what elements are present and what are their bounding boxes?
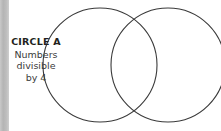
venn-circle-b xyxy=(111,8,221,122)
circle-a-description-line-1: Numbers xyxy=(9,49,63,61)
circle-a-legend: CIRCLE A Numbers divisible by 4 xyxy=(9,36,63,83)
circle-a-title: CIRCLE A xyxy=(9,36,63,48)
circle-a-description-line-3: by 4 xyxy=(9,72,63,84)
circle-a-description-line-2: divisible xyxy=(9,60,63,72)
venn-diagram-figure: CIRCLE A Numbers divisible by 4 xyxy=(0,0,221,131)
